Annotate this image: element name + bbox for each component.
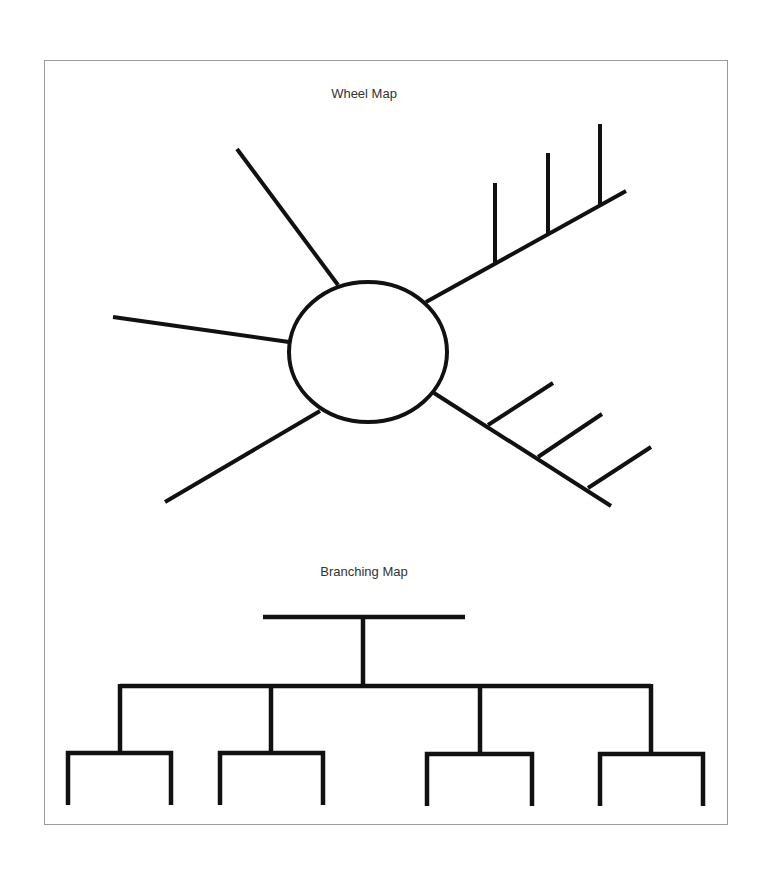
- branch-sub-group: [427, 754, 532, 806]
- diagram-canvas: [0, 0, 764, 870]
- wheel-spoke-upper-right: [426, 191, 626, 302]
- wheel-spoke-lower-right: [434, 393, 611, 506]
- wheel-sub-branch: [588, 447, 651, 488]
- wheel-hub: [289, 282, 447, 422]
- wheel-spoke-left: [113, 317, 289, 342]
- wheel-spoke-lower-left: [165, 411, 320, 502]
- branch-sub-group: [68, 753, 171, 805]
- wheel-map-title: Wheel Map: [331, 86, 397, 102]
- wheel-map: [113, 124, 651, 506]
- wheel-sub-branch: [488, 383, 553, 425]
- wheel-spoke-upper-left: [237, 149, 338, 285]
- wheel-sub-branch: [538, 414, 602, 457]
- branch-sub-group: [220, 753, 323, 805]
- branching-map-title: Branching Map: [320, 564, 407, 580]
- branch-sub-groups: [68, 753, 703, 806]
- branch-drops: [120, 684, 651, 754]
- lower-right-branches: [488, 383, 651, 488]
- branching-map: [68, 617, 703, 806]
- branch-sub-group: [600, 754, 703, 806]
- upper-right-ticks: [495, 124, 600, 263]
